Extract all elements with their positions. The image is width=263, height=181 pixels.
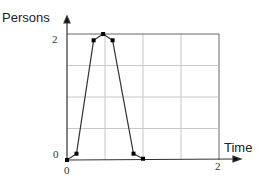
y-axis-arrow-icon [64, 16, 70, 23]
x-axis-label: Time [224, 140, 252, 155]
x-tick-label: 0 [64, 164, 70, 176]
data-point-marker [101, 32, 105, 36]
data-point-marker [75, 152, 79, 156]
x-tick-label: 2 [215, 160, 221, 172]
data-point-marker [65, 158, 69, 162]
y-tick-label: 2 [52, 33, 58, 45]
data-point-marker [141, 157, 145, 161]
axes [64, 16, 241, 162]
data-point-marker [132, 152, 136, 156]
y-tick-label: 0 [53, 148, 59, 160]
x-axis-arrow-icon [233, 156, 241, 162]
data-point-marker [111, 38, 115, 42]
grid-lines [67, 34, 219, 160]
y-axis-label: Persons [2, 10, 50, 25]
line-chart: Persons Time 2 0 0 2 [0, 0, 263, 181]
x-axis [67, 159, 234, 160]
data-point-marker [92, 38, 96, 42]
